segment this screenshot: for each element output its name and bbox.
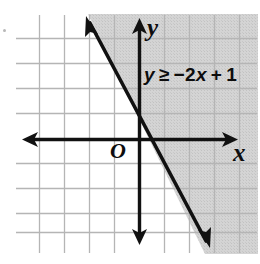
- scan-speck: [3, 29, 6, 32]
- y-axis-label: y: [147, 14, 158, 42]
- inequality-relation-symbol: ≥: [159, 64, 170, 85]
- inequality-annotation: y≥−2x+1: [144, 62, 237, 88]
- x-axis-label: x: [233, 139, 246, 167]
- origin-label: O: [110, 138, 126, 164]
- inequality-variable-x: x: [196, 64, 207, 85]
- inequality-lhs: y: [144, 64, 155, 85]
- inequality-coefficient: −2: [174, 64, 196, 85]
- inequality-graph-figure: [0, 0, 260, 264]
- coordinate-plane-svg: [0, 0, 260, 264]
- inequality-plus-sign: +: [211, 64, 222, 85]
- inequality-constant: 1: [226, 64, 237, 85]
